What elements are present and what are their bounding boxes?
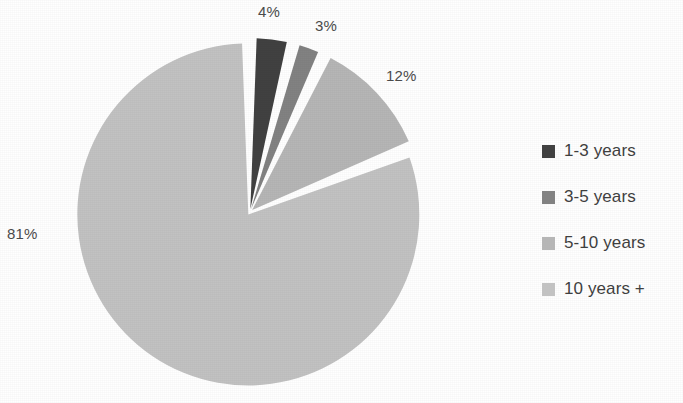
chart-legend: 1-3 years 3-5 years 5-10 years 10 years … [542,128,682,312]
legend-swatch-icon [542,283,555,296]
legend-label: 1-3 years [564,141,636,161]
legend-item-5-10-years[interactable]: 5-10 years [542,220,682,266]
legend-item-1-3-years[interactable]: 1-3 years [542,128,682,174]
legend-label: 10 years + [564,279,645,299]
legend-item-3-5-years[interactable]: 3-5 years [542,174,682,220]
data-label-10-years-plus: 81% [7,225,38,242]
legend-swatch-icon [542,145,555,158]
legend-label: 5-10 years [564,233,645,253]
data-label-1-3-years: 4% [258,3,280,20]
data-label-5-10-years: 12% [386,67,417,84]
data-label-3-5-years: 3% [315,17,337,34]
legend-swatch-icon [542,191,555,204]
pie-slices [77,38,419,385]
legend-swatch-icon [542,237,555,250]
legend-item-10-years-plus[interactable]: 10 years + [542,266,682,312]
legend-label: 3-5 years [564,187,636,207]
pie-chart: 4% 3% 12% 81% 1-3 years 3-5 years 5-10 y… [0,0,683,403]
